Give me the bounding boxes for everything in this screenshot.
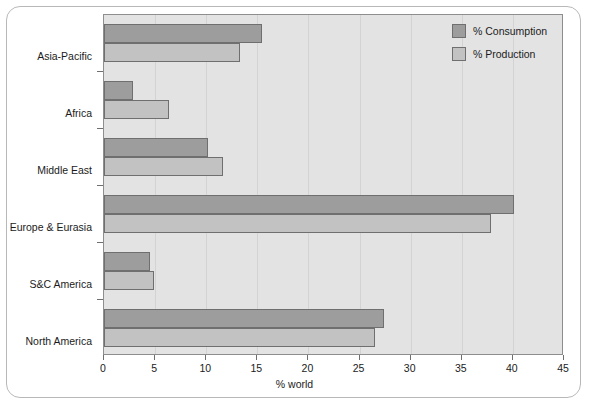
bar-production[interactable] — [104, 43, 240, 62]
legend-label-production: % Production — [473, 48, 535, 60]
x-axis-tick-label: 10 — [199, 362, 211, 374]
x-axis-tick — [256, 355, 257, 360]
bar-consumption[interactable] — [104, 309, 384, 328]
x-axis-tick-label: 45 — [557, 362, 569, 374]
bar-production[interactable] — [104, 271, 154, 290]
bar-production[interactable] — [104, 100, 169, 119]
gridline — [308, 15, 309, 354]
gridline — [257, 15, 258, 354]
bar-production[interactable] — [104, 157, 223, 176]
y-label-middle-east: Middle East — [37, 164, 92, 176]
gridline — [411, 15, 412, 354]
legend-swatch-production — [452, 47, 466, 61]
gridline — [206, 15, 207, 354]
x-axis-tick-label: 40 — [506, 362, 518, 374]
bar-consumption[interactable] — [104, 138, 208, 157]
gridline — [462, 15, 463, 354]
x-axis-tick — [154, 355, 155, 360]
legend-label-consumption: % Consumption — [473, 25, 547, 37]
y-label-asia-pacific: Asia-Pacific — [37, 50, 92, 62]
bar-production[interactable] — [104, 214, 491, 233]
chart-screenshot: Asia-Pacific Africa Middle East Europe &… — [0, 0, 589, 406]
legend-swatch-consumption — [452, 24, 466, 38]
x-axis-tick-label: 25 — [353, 362, 365, 374]
x-axis-tick-label: 5 — [151, 362, 157, 374]
y-label-europe-eurasia: Europe & Eurasia — [10, 221, 92, 233]
legend-item-consumption: % Consumption — [452, 24, 547, 38]
bar-row — [104, 157, 562, 176]
bar-consumption[interactable] — [104, 24, 262, 43]
bar-row — [104, 252, 562, 271]
x-axis-tick — [410, 355, 411, 360]
bar-row — [104, 271, 562, 290]
x-axis-tick-label: 35 — [455, 362, 467, 374]
bar-row — [104, 214, 562, 233]
x-axis-tick — [103, 355, 104, 360]
x-axis-title: % world — [0, 378, 589, 390]
bar-consumption[interactable] — [104, 81, 133, 100]
bar-row — [104, 100, 562, 119]
legend: % Consumption % Production — [452, 24, 547, 61]
x-axis-tick — [307, 355, 308, 360]
bar-row — [104, 309, 562, 328]
bar-row — [104, 195, 562, 214]
gridline — [155, 15, 156, 354]
x-axis-tick-label: 30 — [404, 362, 416, 374]
x-axis-tick — [512, 355, 513, 360]
x-axis-tick-label: 15 — [250, 362, 262, 374]
x-axis-tick-label: 0 — [100, 362, 106, 374]
x-axis-tick — [563, 355, 564, 360]
bar-consumption[interactable] — [104, 195, 514, 214]
legend-item-production: % Production — [452, 47, 547, 61]
bar-production[interactable] — [104, 328, 375, 347]
gridline — [513, 15, 514, 354]
bar-consumption[interactable] — [104, 252, 150, 271]
plot-area — [103, 14, 563, 355]
x-axis-tick-label: 20 — [302, 362, 314, 374]
y-label-africa: Africa — [65, 107, 92, 119]
bar-row — [104, 138, 562, 157]
gridline — [360, 15, 361, 354]
y-label-north-america: North America — [25, 335, 92, 347]
x-axis-tick — [359, 355, 360, 360]
x-axis-tick — [461, 355, 462, 360]
x-axis-tick — [205, 355, 206, 360]
y-label-sc-america: S&C America — [30, 278, 92, 290]
y-axis-labels: Asia-Pacific Africa Middle East Europe &… — [0, 14, 98, 355]
bar-row — [104, 328, 562, 347]
bar-row — [104, 81, 562, 100]
